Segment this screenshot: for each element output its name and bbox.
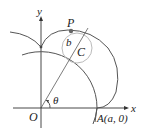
center-c-label: C <box>77 45 86 59</box>
x-axis-arrow-icon <box>124 106 129 110</box>
epicycloid-diagram: y x O P b C θ A(a, 0) <box>0 0 141 135</box>
point-a-label: A(a, 0) <box>96 112 128 125</box>
y-axis-label: y <box>36 5 42 17</box>
angle-theta-label: θ <box>53 94 59 106</box>
cusp-point <box>40 46 43 49</box>
x-axis-label: x <box>130 102 136 114</box>
point-p-label: P <box>66 16 75 30</box>
origin-label: O <box>29 110 38 124</box>
radius-b-label: b <box>66 36 72 48</box>
